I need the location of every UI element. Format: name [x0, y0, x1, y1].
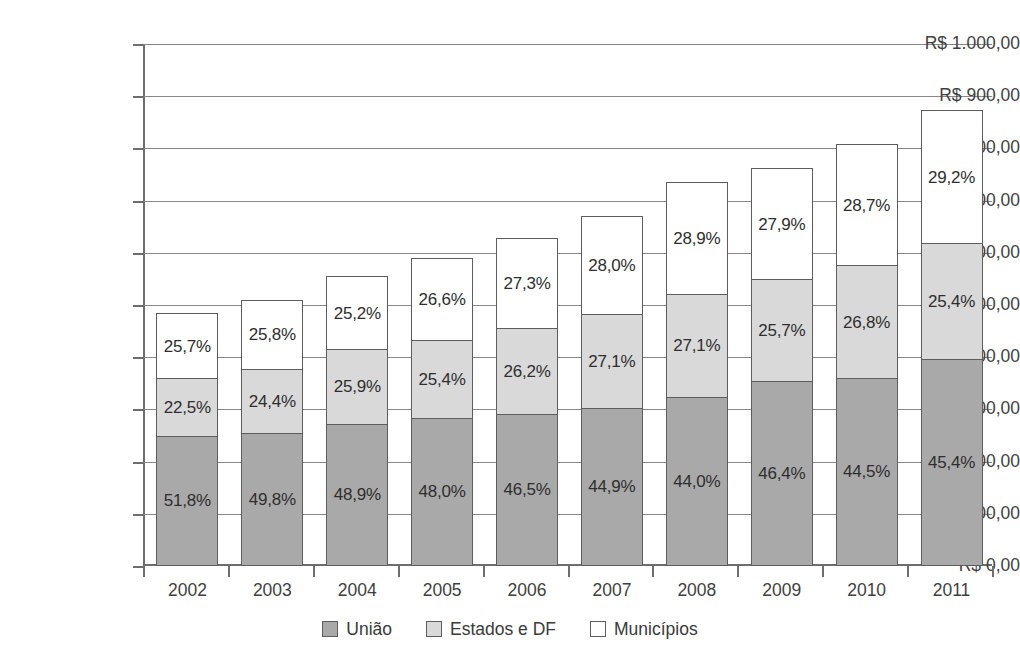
y-axis-tick: [133, 305, 144, 307]
bar-segment[interactable]: 48,0%: [411, 417, 473, 566]
stacked-bar-chart: R$ 0,00R$ 100,00R$ 200,00R$ 300,00R$ 400…: [0, 0, 1020, 670]
x-axis-tick: [652, 566, 654, 577]
bar-segment[interactable]: 45,4%: [921, 358, 983, 566]
x-axis-tick: [822, 566, 824, 577]
legend-swatch-icon: [322, 621, 338, 637]
bar-segment[interactable]: 27,3%: [496, 238, 558, 329]
bar-segment-value-label: 51,8%: [164, 492, 211, 509]
bar-segment[interactable]: 25,4%: [411, 340, 473, 419]
bar-segment[interactable]: 26,2%: [496, 328, 558, 415]
bar-segment[interactable]: 44,9%: [581, 408, 643, 566]
bar-segment-value-label: 28,7%: [843, 197, 890, 214]
y-axis-tick: [133, 201, 144, 203]
bar-segment-value-label: 46,4%: [758, 465, 805, 482]
legend-label: Estados e DF: [450, 620, 556, 638]
y-axis-tick: [133, 96, 144, 98]
bar-segment[interactable]: 27,1%: [666, 293, 728, 398]
y-axis-tick: [133, 148, 144, 150]
bar-segment-value-label: 26,8%: [843, 314, 890, 331]
x-axis-tick: [313, 566, 315, 577]
bar-segment[interactable]: 25,8%: [241, 300, 303, 370]
bar-segment[interactable]: 28,0%: [581, 216, 643, 315]
bar-segment[interactable]: 51,8%: [156, 435, 218, 566]
gridline: [143, 96, 992, 97]
bar-segment[interactable]: 46,4%: [751, 381, 813, 566]
legend-swatch-icon: [426, 621, 442, 637]
bar-segment-value-label: 25,7%: [758, 322, 805, 339]
bar-segment-value-label: 25,4%: [419, 371, 466, 388]
bar-segment-value-label: 28,0%: [588, 257, 635, 274]
x-axis-tick: [907, 566, 909, 577]
chart-legend: UniãoEstados e DFMunicípios: [0, 620, 1020, 638]
y-axis-tick: [133, 409, 144, 411]
bar-segment[interactable]: 29,2%: [921, 110, 983, 244]
bar-segment-value-label: 48,9%: [334, 486, 381, 503]
bar-segment-value-label: 24,4%: [249, 393, 296, 410]
y-axis-tick: [133, 44, 144, 46]
bar-segment-value-label: 27,1%: [673, 337, 720, 354]
bar-segment-value-label: 44,5%: [843, 463, 890, 480]
bar-segment[interactable]: 27,9%: [751, 168, 813, 280]
y-axis-tick: [133, 357, 144, 359]
y-axis-tick: [133, 253, 144, 255]
bar-segment[interactable]: 28,7%: [836, 144, 898, 266]
legend-swatch-icon: [590, 621, 606, 637]
bar-segment-value-label: 25,2%: [334, 305, 381, 322]
legend-item[interactable]: Municípios: [590, 620, 698, 638]
bar-segment[interactable]: 22,5%: [156, 378, 218, 437]
x-axis-tick: [568, 566, 570, 577]
legend-item[interactable]: Estados e DF: [426, 620, 556, 638]
bar-segment[interactable]: 44,0%: [666, 396, 728, 566]
bar-segment[interactable]: 28,9%: [666, 182, 728, 294]
bar-segment-value-label: 48,0%: [419, 483, 466, 500]
bar-segment[interactable]: 25,2%: [326, 276, 388, 350]
bar-segment-value-label: 25,9%: [334, 378, 381, 395]
bar-segment-value-label: 25,4%: [928, 293, 975, 310]
x-axis-tick: [737, 566, 739, 577]
bar-segment-value-label: 49,8%: [249, 491, 296, 508]
bar-segment[interactable]: 26,6%: [411, 258, 473, 341]
bar-segment[interactable]: 46,5%: [496, 413, 558, 566]
bar-segment[interactable]: 49,8%: [241, 433, 303, 566]
legend-item[interactable]: União: [322, 620, 392, 638]
bar-segment-value-label: 44,9%: [588, 478, 635, 495]
bar-segment-value-label: 22,5%: [164, 399, 211, 416]
bar-segment-value-label: 44,0%: [673, 473, 720, 490]
bar-segment[interactable]: 25,7%: [751, 279, 813, 382]
bar-segment[interactable]: 25,9%: [326, 349, 388, 425]
bar-segment[interactable]: 44,5%: [836, 378, 898, 566]
bar-segment-value-label: 27,9%: [758, 216, 805, 233]
x-axis-tick: [143, 566, 145, 577]
legend-label: União: [346, 620, 392, 638]
gridline: [143, 44, 992, 45]
bar-segment-value-label: 46,5%: [503, 481, 550, 498]
y-axis-label: R$ 1.000,00: [902, 35, 1020, 53]
y-axis-label: R$ 900,00: [902, 87, 1020, 105]
bar-segment-value-label: 26,2%: [503, 363, 550, 380]
bar-segment[interactable]: 26,8%: [836, 265, 898, 379]
bar-segment[interactable]: 25,4%: [921, 243, 983, 360]
x-axis-tick: [228, 566, 230, 577]
bar-segment-value-label: 28,9%: [673, 230, 720, 247]
bar-segment[interactable]: 48,9%: [326, 424, 388, 566]
bar-segment-value-label: 26,6%: [419, 291, 466, 308]
y-axis-tick: [133, 462, 144, 464]
x-axis-tick: [992, 566, 994, 577]
bar-segment-value-label: 25,7%: [164, 338, 211, 355]
bar-segment-value-label: 27,1%: [588, 353, 635, 370]
bar-segment-value-label: 45,4%: [928, 454, 975, 471]
bar-segment[interactable]: 25,7%: [156, 313, 218, 379]
bar-segment-value-label: 27,3%: [503, 275, 550, 292]
bar-segment-value-label: 25,8%: [249, 326, 296, 343]
bar-segment-value-label: 29,2%: [928, 169, 975, 186]
x-axis-tick: [483, 566, 485, 577]
bar-segment[interactable]: 24,4%: [241, 368, 303, 434]
x-axis-tick: [398, 566, 400, 577]
x-axis-label: 2011: [897, 580, 1007, 600]
y-axis-tick: [133, 514, 144, 516]
bar-segment[interactable]: 27,1%: [581, 313, 643, 409]
legend-label: Municípios: [614, 620, 698, 638]
